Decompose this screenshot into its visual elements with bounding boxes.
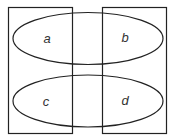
region-label-d: d	[121, 93, 129, 108]
left-rectangle	[9, 8, 73, 134]
top-ellipse	[13, 13, 163, 65]
region-label-a: a	[43, 31, 50, 46]
right-rectangle	[103, 8, 167, 134]
set-diagram: a b c d	[0, 0, 175, 140]
region-label-b: b	[121, 30, 128, 45]
bottom-ellipse	[13, 75, 163, 127]
region-label-c: c	[43, 94, 50, 109]
